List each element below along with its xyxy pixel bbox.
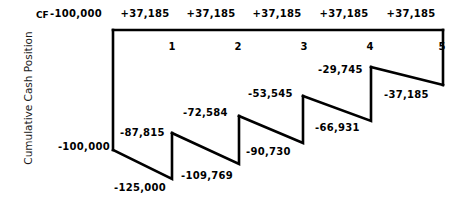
period-mark-1: 1 [164,41,180,52]
period-1-segment [113,133,172,179]
annotation-minus-72584: -72,584 [183,107,228,118]
cash-flow-label-0: -100,000 [36,8,116,19]
period-3-segment [239,96,303,143]
annotation-minus-87815: -87,815 [120,127,165,138]
annotation-minus-53545: -53,545 [248,88,293,99]
annotation-minus-100000: -100,000 [30,141,110,152]
cash-flow-diagram: Cumulative Cash Position CF -100,000 +37… [0,0,456,208]
cash-flow-label-5: +37,185 [371,8,451,19]
period-mark-3: 3 [296,41,312,52]
annotation-minus-37185: -37,185 [384,89,429,100]
annotation-minus-29745: -29,745 [318,64,363,75]
annotation-minus-125000: -125,000 [114,182,166,193]
annotation-minus-90730: -90,730 [246,146,291,157]
period-5-segment [371,67,443,85]
period-2-segment [172,116,239,164]
period-mark-5: 5 [434,41,450,52]
annotation-minus-66931: -66,931 [315,122,360,133]
period-mark-4: 4 [362,41,378,52]
period-4-segment [303,67,371,121]
period-mark-2: 2 [230,41,246,52]
annotation-minus-109769: -109,769 [181,170,233,181]
